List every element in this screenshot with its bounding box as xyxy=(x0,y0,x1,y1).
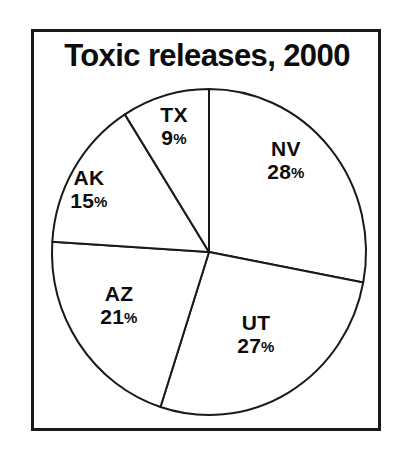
pie-label-ak-value: 15% xyxy=(40,190,138,211)
pie-label-az: AZ 21% xyxy=(70,283,168,328)
chart-title: Toxic releases, 2000 xyxy=(42,36,372,76)
chart-border-frame xyxy=(31,29,381,431)
pie-label-ut: UT 27% xyxy=(206,312,306,357)
percent-symbol: % xyxy=(124,309,138,326)
percent-symbol: % xyxy=(291,164,305,181)
pie-label-tx-value: 9% xyxy=(132,127,216,148)
pie-label-ut-value: 27% xyxy=(206,335,306,356)
pie-label-tx-name: TX xyxy=(132,104,216,125)
pie-label-ak: AK 15% xyxy=(40,167,138,212)
pie-label-tx: TX 9% xyxy=(132,104,216,149)
pie-label-nv-value: 28% xyxy=(236,161,336,182)
percent-symbol: % xyxy=(94,193,108,210)
percent-symbol: % xyxy=(261,338,275,355)
percent-symbol: % xyxy=(173,130,187,147)
pie-label-nv-name: NV xyxy=(236,138,336,159)
pie-chart-figure: Toxic releases, 2000 NV 28% UT 27% AZ 21… xyxy=(0,0,407,461)
pie-label-az-value: 21% xyxy=(70,306,168,327)
pie-label-ak-name: AK xyxy=(40,167,138,188)
pie-label-ut-name: UT xyxy=(206,312,306,333)
pie-label-az-name: AZ xyxy=(70,283,168,304)
pie-label-nv: NV 28% xyxy=(236,138,336,183)
